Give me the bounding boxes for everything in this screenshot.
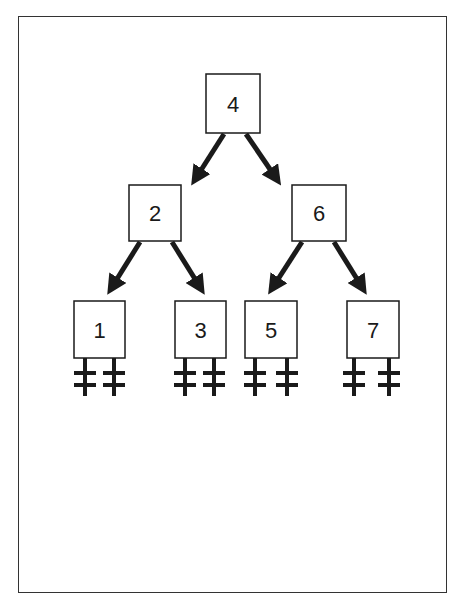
null-pointers-group	[74, 358, 400, 396]
null-pointer-icon	[174, 358, 196, 396]
tree-node-1: 1	[74, 301, 125, 358]
null-pointer-icon	[378, 358, 400, 396]
tree-node-7: 7	[347, 301, 399, 358]
node-label: 3	[194, 318, 206, 343]
node-label: 4	[227, 92, 239, 117]
node-label: 7	[367, 318, 379, 343]
edge-arrow-6-to-7	[334, 242, 362, 287]
tree-node-6: 6	[292, 185, 346, 241]
node-label: 6	[313, 201, 325, 226]
edge-arrow-2-to-3	[172, 242, 200, 287]
null-pointer-icon	[343, 358, 365, 396]
null-pointer-icon	[203, 358, 225, 396]
tree-node-3: 3	[175, 301, 226, 358]
null-pointer-icon	[103, 358, 125, 396]
tree-diagram: 4261357	[0, 0, 463, 596]
node-label: 1	[93, 318, 105, 343]
edge-arrow-4-to-2	[196, 134, 224, 178]
edge-arrow-2-to-1	[112, 242, 140, 287]
node-label: 5	[265, 318, 277, 343]
tree-node-5: 5	[245, 301, 297, 358]
nodes-group: 4261357	[74, 74, 399, 358]
node-label: 2	[149, 201, 161, 226]
edge-arrow-4-to-6	[246, 134, 276, 178]
edge-arrow-6-to-5	[273, 242, 302, 287]
null-pointer-icon	[276, 358, 298, 396]
tree-node-4: 4	[206, 74, 260, 133]
null-pointer-icon	[244, 358, 266, 396]
tree-node-2: 2	[129, 185, 181, 241]
null-pointer-icon	[74, 358, 96, 396]
